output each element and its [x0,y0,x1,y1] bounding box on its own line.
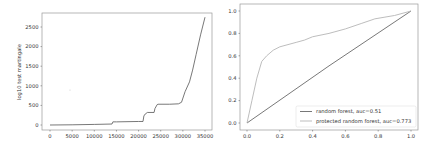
martingale-chart: 05001000150020002500 0500010000150002000… [16,13,213,139]
y-tick-label: 0.2 [228,97,236,103]
stray-dot [69,89,70,90]
left-y-axis-ticks: 05001000150020002500 [25,24,42,128]
left-x-axis-ticks: 05000100001500020000250003000035000 [48,130,213,139]
x-tick-label: 0.0 [243,133,251,139]
x-tick-label: 15000 [108,133,125,139]
x-tick-label: 0.8 [374,133,382,139]
x-tick-label: 1.0 [407,133,415,139]
y-tick-label: 2000 [25,43,38,49]
x-tick-label: 0.4 [308,133,317,139]
roc-legend: random forest, auc=0.51 protected random… [296,106,416,127]
y-tick-label: 0.6 [228,53,236,59]
x-tick-label: 10000 [86,133,103,139]
y-tick-label: 0.4 [228,75,237,81]
y-tick-label: 0.0 [228,120,236,126]
y-tick-label: 1.0 [228,8,236,14]
x-tick-label: 0.6 [341,133,349,139]
right-y-axis-ticks: 0.00.20.40.60.81.0 [228,8,240,126]
legend-label-random-forest: random forest, auc=0.51 [316,108,381,114]
x-tick-label: 30000 [175,133,192,139]
x-tick-label: 35000 [197,133,214,139]
charts-figure: 05001000150020002500 0500010000150002000… [0,0,437,147]
x-tick-label: 25000 [152,133,169,139]
y-tick-label: 500 [29,102,39,108]
roc-chart: 0.00.20.40.60.81.0 0.00.20.40.60.81.0 ra… [228,4,418,139]
right-x-axis-ticks: 0.00.20.40.60.81.0 [243,130,415,139]
x-tick-label: 20000 [130,133,147,139]
left-axes-frame [42,13,212,130]
y-tick-label: 1500 [25,63,38,69]
x-tick-label: 5000 [66,133,79,139]
y-tick-label: 1000 [25,83,38,89]
x-tick-label: 0.2 [276,133,284,139]
y-tick-label: 0 [35,122,38,128]
legend-label-protected-random-forest: protected random forest, auc=0.773 [316,118,411,125]
y-tick-label: 2500 [25,24,38,30]
y-tick-label: 0.8 [228,30,236,36]
left-y-axis-label: log10 test martingale [16,44,23,100]
x-tick-label: 0 [48,133,51,139]
